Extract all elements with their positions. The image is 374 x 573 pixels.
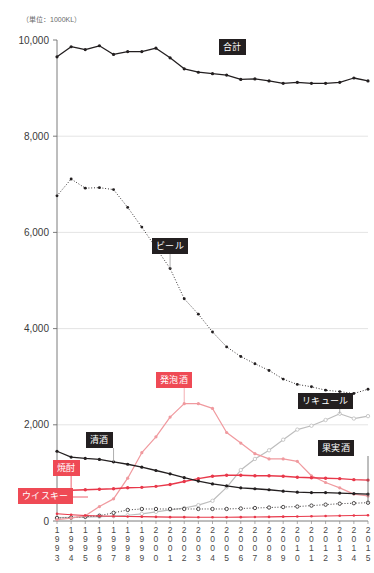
- data-point: [112, 53, 115, 56]
- series-発泡酒: [55, 402, 369, 521]
- y-tick-label: 8,000: [24, 131, 49, 142]
- data-point: [197, 313, 200, 316]
- data-point: [154, 47, 157, 50]
- x-tick-label: 2000: [150, 526, 161, 563]
- data-point: [126, 463, 129, 466]
- data-point: [84, 488, 87, 491]
- data-point: [239, 441, 242, 444]
- data-point: [211, 507, 214, 510]
- data-point: [268, 369, 271, 372]
- data-point: [70, 178, 73, 181]
- data-point: [239, 355, 242, 358]
- data-point: [168, 472, 171, 475]
- data-point: [310, 504, 313, 507]
- data-point: [296, 505, 299, 508]
- x-tick-label: 2006: [235, 526, 246, 563]
- x-tick-label: 2010: [292, 526, 303, 563]
- data-point: [183, 516, 186, 519]
- series-label-shochu: 焼酎: [53, 460, 80, 476]
- data-point: [324, 503, 327, 506]
- x-tick-label: 1995: [80, 526, 91, 563]
- data-point: [98, 515, 101, 518]
- data-point: [168, 416, 171, 419]
- data-point: [126, 50, 129, 53]
- data-point: [267, 474, 270, 477]
- data-point: [112, 497, 115, 500]
- data-point: [282, 515, 285, 518]
- data-point: [140, 486, 143, 489]
- data-point: [268, 516, 271, 519]
- data-point: [324, 491, 327, 494]
- data-point: [126, 206, 129, 209]
- y-tick-label: 10,000: [18, 35, 49, 46]
- data-point: [338, 492, 341, 495]
- data-point: [296, 428, 299, 431]
- x-tick-label: 2002: [179, 526, 190, 563]
- data-point: [225, 74, 228, 77]
- data-point: [56, 512, 59, 515]
- data-point: [282, 490, 285, 493]
- data-point: [254, 516, 257, 519]
- data-point: [141, 515, 144, 518]
- data-point: [98, 458, 101, 461]
- x-tick-label: 2007: [249, 526, 260, 563]
- data-point: [211, 516, 214, 519]
- data-point: [225, 507, 228, 510]
- x-tick-label: 2001: [165, 526, 176, 563]
- data-point: [310, 491, 313, 494]
- data-point: [211, 475, 214, 478]
- data-point: [225, 484, 228, 487]
- data-point: [281, 475, 284, 478]
- x-tick-label: 2004: [207, 526, 218, 563]
- series-合計: [55, 44, 369, 85]
- data-point: [197, 507, 200, 510]
- series-line: [57, 46, 368, 84]
- data-point: [112, 511, 115, 514]
- x-tick-label: 2003: [193, 526, 204, 563]
- data-point: [296, 515, 299, 518]
- data-point: [282, 457, 285, 460]
- data-point: [56, 194, 59, 197]
- data-point: [338, 477, 341, 480]
- data-point: [126, 477, 129, 480]
- data-point: [296, 491, 299, 494]
- x-tick-label: 2012: [320, 526, 331, 563]
- data-point: [225, 474, 228, 477]
- data-point: [169, 516, 172, 519]
- x-tick-label: 1999: [136, 526, 147, 563]
- data-point: [168, 56, 171, 59]
- series-リキュール: [55, 412, 369, 519]
- y-tick-label: 4,000: [24, 323, 49, 334]
- data-point: [239, 78, 242, 81]
- data-point: [126, 486, 129, 489]
- data-point: [239, 486, 242, 489]
- data-point: [253, 457, 256, 460]
- data-point: [267, 79, 270, 82]
- data-point: [267, 457, 270, 460]
- x-tick-label: 2015: [363, 526, 374, 563]
- data-point: [338, 514, 341, 517]
- data-point: [211, 331, 214, 334]
- data-point: [296, 81, 299, 84]
- x-tick-label: 2009: [278, 526, 289, 563]
- data-point: [140, 50, 143, 53]
- data-point: [239, 507, 242, 510]
- data-point: [310, 82, 313, 85]
- x-tick-label: 2011: [306, 526, 317, 563]
- data-point: [310, 476, 313, 479]
- data-point: [98, 44, 101, 47]
- data-point: [324, 82, 327, 85]
- x-tick-label: 2014: [348, 526, 359, 563]
- series-line: [57, 451, 368, 494]
- data-point: [140, 466, 143, 469]
- data-point: [352, 502, 355, 505]
- data-point: [310, 515, 313, 518]
- data-point: [239, 516, 242, 519]
- data-point: [324, 476, 327, 479]
- data-point: [353, 514, 356, 517]
- y-tick-label: 2,000: [24, 419, 49, 430]
- series-label-fruit-wine: 果実酒: [318, 440, 354, 456]
- data-point: [154, 435, 157, 438]
- data-point: [55, 55, 58, 58]
- data-point: [267, 506, 270, 509]
